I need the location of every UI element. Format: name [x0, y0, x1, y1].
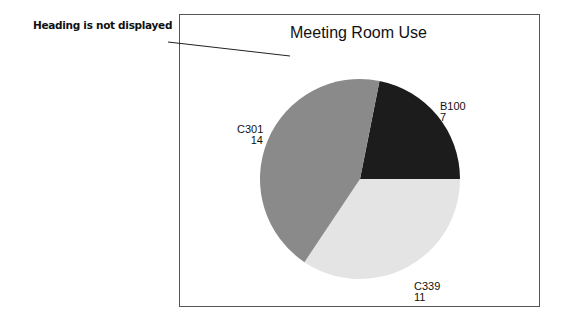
slice-value: 14	[237, 135, 263, 146]
pie-chart	[0, 0, 574, 321]
slice-label-c339: C339 11	[414, 281, 440, 303]
chart-title: Meeting Room Use	[290, 24, 427, 42]
callout-line	[168, 42, 290, 56]
pie-slices	[260, 79, 460, 279]
slice-label-b100: B100 7	[440, 101, 466, 123]
slice-label-c301: C301 14	[237, 124, 263, 146]
slice-value: 7	[440, 112, 466, 123]
slice-value: 11	[414, 292, 440, 303]
